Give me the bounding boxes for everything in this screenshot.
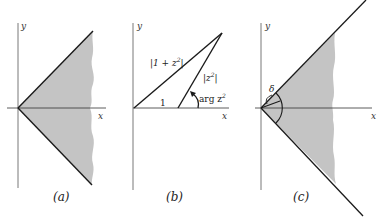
figure: y x (a) |1 + z2| |z2| 1 arg z2 y x (b): [0, 0, 387, 217]
shaded-sector-c: [261, 33, 336, 184]
y-axis-label-b: y: [136, 21, 143, 31]
caption-c: (c): [293, 190, 309, 204]
label-arg-z2: arg z2: [199, 92, 226, 104]
x-axis-label-b: x: [222, 111, 227, 121]
caption-a: (a): [53, 190, 70, 204]
label-delta: δ: [269, 84, 274, 94]
panel-a: y x (a): [7, 21, 106, 204]
y-axis-label-c: y: [264, 21, 271, 31]
label-1-plus-z2: |1 + z2|: [150, 56, 184, 69]
label-unit: 1: [160, 98, 166, 108]
x-axis-label-c: x: [371, 111, 376, 121]
label-z2: |z2|: [203, 71, 218, 84]
y-axis-label-a: y: [20, 21, 27, 31]
panel-c: δ y x (c): [255, 0, 376, 216]
angle-arc-arg-z2: [193, 94, 198, 108]
panel-b: |1 + z2| |z2| 1 arg z2 y x (b): [133, 21, 229, 204]
x-axis-label-a: x: [98, 111, 103, 121]
caption-b: (b): [166, 190, 183, 204]
